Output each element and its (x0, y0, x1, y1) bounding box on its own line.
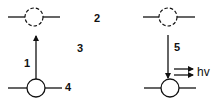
label-1: 1 (24, 57, 30, 69)
ground-level-right (144, 79, 196, 97)
label-4: 4 (65, 81, 72, 93)
emission-label: hv (197, 65, 210, 79)
label-5: 5 (174, 41, 180, 53)
label-3: 3 (77, 42, 83, 54)
excited-level-left (8, 8, 60, 26)
energy-diagram: 1 2 3 4 5 hv (0, 0, 218, 103)
excited-level-right (143, 8, 195, 26)
label-2: 2 (94, 12, 100, 24)
ground-level-left (8, 79, 62, 97)
emission-arrows-icon (174, 69, 193, 75)
